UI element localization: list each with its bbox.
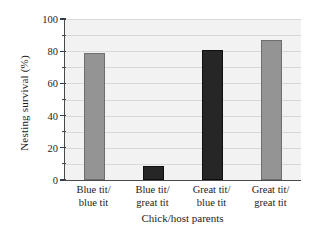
y-axis-tick-label: 60 <box>48 78 59 89</box>
y-axis-minor-tick <box>62 131 66 132</box>
plot-inner <box>65 19 301 180</box>
y-axis-minor-tick <box>62 67 66 68</box>
y-axis-tick-label: 100 <box>42 14 58 25</box>
gridline <box>65 19 301 20</box>
bar-1 <box>84 53 105 180</box>
x-axis-tick-label: Great tit/great tit <box>235 184 307 209</box>
y-axis-title: Nesting survival (%) <box>18 18 30 188</box>
x-axis-title: Chick/host parents <box>64 212 301 224</box>
y-axis-tick <box>60 115 66 116</box>
chart-figure: Nesting survival (%) 020406080100 Chick/… <box>0 0 314 244</box>
y-axis-tick-label: 80 <box>48 46 59 57</box>
y-axis-tick <box>60 18 66 19</box>
y-axis-tick <box>60 51 66 52</box>
bar-3 <box>202 50 223 180</box>
y-axis-tick <box>60 147 66 148</box>
x-axis-tick-label-line: great tit <box>235 197 307 210</box>
plot-area: 020406080100 <box>64 19 301 180</box>
x-axis-tick-label-line: Great tit/ <box>235 184 307 197</box>
y-axis-minor-tick <box>62 99 66 100</box>
y-axis-tick <box>60 83 66 84</box>
gridline <box>65 35 301 36</box>
y-axis-minor-tick <box>62 35 66 36</box>
bar-2 <box>143 166 164 180</box>
x-axis-line <box>64 180 301 181</box>
bar-4 <box>261 40 282 180</box>
y-axis-tick-label: 20 <box>48 142 59 153</box>
y-axis-minor-tick <box>62 163 66 164</box>
y-axis-tick-label: 40 <box>48 110 59 121</box>
